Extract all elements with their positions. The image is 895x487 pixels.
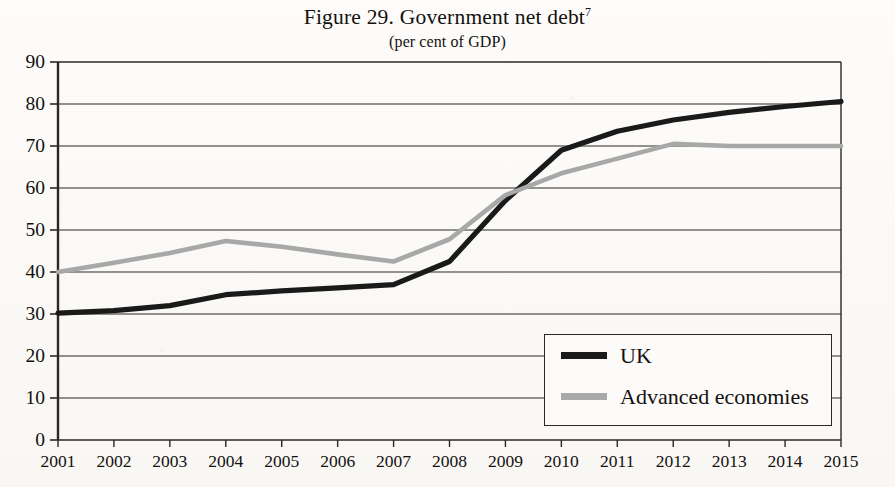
x-axis-tick-label: 2015 <box>806 452 876 470</box>
y-axis-tick-label: 80 <box>0 94 45 114</box>
data-series-group <box>58 101 841 313</box>
legend-item: Advanced economies <box>545 376 831 417</box>
series-line-uk <box>58 101 841 313</box>
legend-label: Advanced economies <box>620 386 809 408</box>
figure-page: Figure 29. Government net debt7 (per cen… <box>0 0 895 487</box>
legend-label: UK <box>620 345 652 367</box>
y-axis-tick-label: 90 <box>0 52 45 72</box>
y-axis-tick-label: 60 <box>0 178 45 198</box>
legend-swatch-icon <box>561 393 607 400</box>
y-axis-tick-label: 70 <box>0 136 45 156</box>
y-axis-tick-label: 20 <box>0 346 45 366</box>
legend-swatch-icon <box>561 352 607 359</box>
x-tick-marks-group <box>58 440 841 447</box>
y-axis-tick-label: 0 <box>0 430 45 450</box>
y-axis-tick-label: 30 <box>0 304 45 324</box>
series-line-advanced-economies <box>58 144 841 272</box>
chart-legend: UKAdvanced economies <box>544 334 832 426</box>
legend-item: UK <box>545 335 831 376</box>
y-axis-tick-label: 40 <box>0 262 45 282</box>
y-axis-tick-label: 10 <box>0 388 45 408</box>
y-axis-tick-label: 50 <box>0 220 45 240</box>
